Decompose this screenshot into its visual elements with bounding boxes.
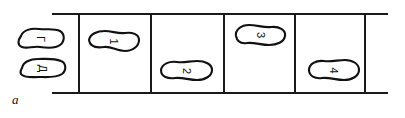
blob-shape-3: 3 [232, 23, 288, 47]
blob-outline-icon [305, 58, 362, 83]
blob-outline-icon [16, 57, 68, 80]
blob-shape-d: Д [16, 57, 68, 80]
blob-outline-icon [157, 59, 215, 83]
blob-shape-1: 1 [84, 29, 142, 54]
blob-shape-4: 4 [305, 58, 362, 83]
top-rail [52, 13, 388, 15]
bottom-rail [52, 92, 388, 94]
divider-4 [294, 13, 296, 94]
figure-panel-a: Г Д 1 2 3 4 a [0, 0, 405, 118]
blob-outline-icon [14, 27, 66, 51]
blob-outline-icon [84, 29, 142, 54]
panel-letter-label: a [12, 92, 19, 108]
blob-shape-g: Г [14, 27, 66, 51]
divider-1 [78, 13, 80, 94]
divider-3 [223, 13, 225, 94]
divider-2 [150, 13, 152, 94]
divider-5 [364, 13, 366, 94]
blob-outline-icon [232, 23, 288, 47]
blob-shape-2: 2 [157, 59, 215, 83]
